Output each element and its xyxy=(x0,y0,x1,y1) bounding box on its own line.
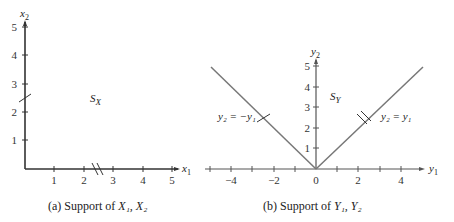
tick-label: 3 xyxy=(305,101,311,113)
region-label-sx: SX xyxy=(90,92,102,107)
tick-label: 2 xyxy=(12,106,18,118)
tick-label: 1 xyxy=(51,174,57,186)
tick-label: 4 xyxy=(140,174,146,186)
tick-label: 2 xyxy=(355,174,361,186)
y2-axis-label: y2 xyxy=(310,45,320,60)
tick-label: 3 xyxy=(110,174,116,186)
panel-a: 1 2 3 4 5 1 2 3 4 5 x2 x1 SX xyxy=(12,7,191,186)
line-label-right: y₂ = y₁ xyxy=(380,110,412,122)
tick-label: 2 xyxy=(305,122,311,134)
panel-b: −4 −2 0 2 4 1 2 3 4 5 y2 y1 SY y₂ = −y₁ … xyxy=(205,45,438,186)
tick-label: 2 xyxy=(81,174,87,186)
tick-label: −4 xyxy=(225,174,237,186)
diagram-canvas: 1 2 3 4 5 1 2 3 4 5 x2 x1 SX xyxy=(0,0,454,222)
caption-a: (a) Support of X₁, X₂ xyxy=(48,199,147,214)
tick-label: 1 xyxy=(12,134,18,146)
y1-axis-label: y1 xyxy=(428,162,438,177)
caption-b: (b) Support of Y₁, Y₂ xyxy=(263,199,362,214)
tick-label: 4 xyxy=(398,174,404,186)
region-label-sy: SY xyxy=(330,90,342,105)
line-break-mark-left xyxy=(257,114,270,122)
x2-axis-label: x2 xyxy=(19,7,29,22)
tick-label: −2 xyxy=(268,174,280,186)
tick-label: 5 xyxy=(305,60,311,72)
tick-label: 1 xyxy=(305,142,311,154)
tick-label: 4 xyxy=(305,81,311,93)
tick-label: 5 xyxy=(12,21,18,33)
tick-label: 3 xyxy=(12,78,18,90)
y1-axis-arrow-icon xyxy=(419,167,425,171)
line-label-left: y₂ = −y₁ xyxy=(217,110,256,122)
x1-axis-label: x1 xyxy=(181,162,191,177)
tick-label: 0 xyxy=(313,174,319,186)
tick-label: 4 xyxy=(12,49,18,61)
x1-axis-arrow-icon xyxy=(174,167,180,171)
tick-label: 5 xyxy=(169,174,175,186)
